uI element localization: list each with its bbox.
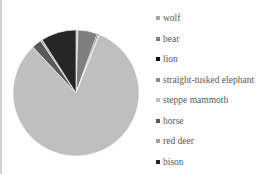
legend-marker-icon [156,160,160,164]
chart-legend: wolf bear lion straight-tusked elephant … [156,8,261,172]
legend-item-red-deer: red deer [156,131,261,152]
legend-marker-icon [156,139,160,143]
legend-marker-icon [156,16,160,20]
pie-chart-svg [10,27,142,159]
legend-label: wolf [163,13,180,23]
legend-item-straight-tusked-elephant: straight-tusked elephant [156,70,261,91]
legend-item-bison: bison [156,152,261,173]
legend-marker-icon [156,37,160,41]
legend-marker-icon [156,57,160,61]
legend-item-horse: horse [156,111,261,132]
legend-label: horse [163,116,184,126]
legend-marker-icon [156,98,160,102]
legend-label: bison [163,157,184,167]
pie-chart [10,27,142,159]
legend-label: straight-tusked elephant [163,75,254,85]
legend-marker-icon [156,119,160,123]
legend-label: red deer [163,136,194,146]
legend-label: steppe mammoth [163,95,228,105]
legend-label: bear [163,34,179,44]
legend-item-bear: bear [156,29,261,50]
legend-item-wolf: wolf [156,8,261,29]
legend-item-lion: lion [156,49,261,70]
left-border-line [0,0,2,174]
legend-marker-icon [156,78,160,82]
legend-item-steppe-mammoth: steppe mammoth [156,90,261,111]
legend-label: lion [163,54,178,64]
